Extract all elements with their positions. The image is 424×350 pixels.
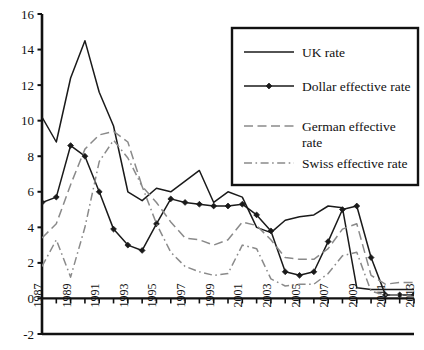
y-tick-label: 16 (21, 7, 35, 22)
x-tick-label: 1989 (60, 283, 74, 307)
legend-label-3: Swiss effective rate (302, 156, 407, 171)
series-marker-diamond (39, 200, 45, 206)
series-marker-diamond (225, 203, 231, 209)
x-tick-label: 1993 (117, 283, 131, 307)
y-tick-label: 4 (28, 220, 35, 235)
x-tick-label: 2003 (260, 283, 274, 307)
x-tick-label: 1997 (174, 283, 188, 307)
series-marker-diamond (325, 239, 331, 245)
series-marker-diamond (211, 203, 217, 209)
line-chart: -202468101214161987198919911993199519971… (0, 0, 424, 350)
x-tick-label: 2001 (231, 283, 245, 307)
x-tick-label: 2009 (346, 283, 360, 307)
legend-label-1: Dollar effective rate (302, 79, 410, 94)
legend-label-2-line2: rate (302, 135, 322, 150)
legend-label-0: UK rate (302, 45, 345, 60)
y-tick-label: 8 (28, 149, 35, 164)
series-marker-diamond (311, 269, 317, 275)
series-marker-diamond (53, 194, 59, 200)
x-tick-label: 2005 (289, 283, 303, 307)
x-tick-label: 1987 (31, 283, 45, 307)
y-tick-label: 2 (28, 255, 35, 270)
y-tick-label: 14 (21, 42, 35, 57)
legend: UK rateDollar effective rateGerman effec… (232, 28, 418, 185)
x-tick-label: 2007 (317, 283, 331, 307)
series-marker-diamond (282, 269, 288, 275)
series-marker-diamond (96, 189, 102, 195)
series-marker-diamond (354, 203, 360, 209)
series-marker-diamond (368, 255, 374, 261)
legend-label-2: German effective (302, 119, 396, 134)
series-marker-diamond (182, 200, 188, 206)
series-marker-diamond (297, 272, 303, 278)
series-marker-diamond (139, 248, 145, 254)
y-tick-label: 6 (28, 184, 35, 199)
y-tick-label: 12 (21, 78, 34, 93)
y-tick-label: 10 (21, 113, 34, 128)
x-tick-label: 1995 (145, 283, 159, 307)
x-tick-label: 1999 (203, 283, 217, 307)
x-tick-label: 1991 (88, 283, 102, 307)
series-marker-diamond (196, 201, 202, 207)
chart-canvas: -202468101214161987198919911993199519971… (0, 0, 424, 350)
y-tick-label: -2 (23, 327, 34, 342)
